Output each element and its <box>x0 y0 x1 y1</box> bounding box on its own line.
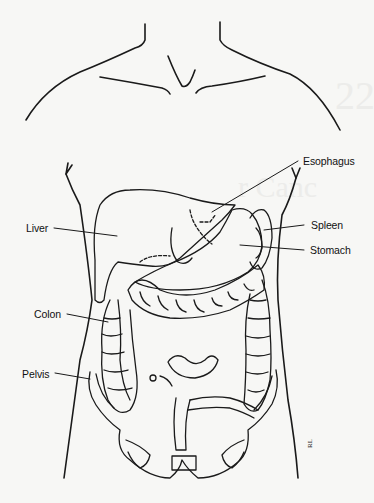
label-spleen: Spleen <box>311 219 343 231</box>
pelvis-shape <box>89 356 277 478</box>
colon-shape <box>102 265 271 450</box>
shoulders-outline <box>26 22 340 130</box>
liver-shape <box>94 190 235 303</box>
label-stomach: Stomach <box>310 244 351 256</box>
label-leaders <box>54 161 304 379</box>
label-pelvis: Pelvis <box>22 368 49 380</box>
spleen-shape <box>250 210 272 269</box>
label-esophagus: Esophagus <box>303 155 355 167</box>
label-liver: Liver <box>26 222 48 234</box>
stomach-shape <box>135 209 262 290</box>
artist-signature: RL <box>306 439 314 448</box>
label-colon: Colon <box>34 308 61 320</box>
